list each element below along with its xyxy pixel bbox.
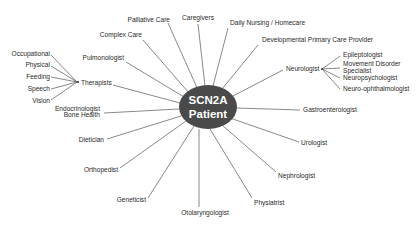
spoke-pulmonologist bbox=[126, 62, 184, 97]
label-urologist: Urologist bbox=[301, 139, 327, 147]
branch-speech bbox=[51, 82, 77, 89]
spoke-geneticist bbox=[148, 126, 194, 198]
therapist-type-labels: Occupational Physical Feeding Speech Vis… bbox=[12, 50, 51, 104]
spoke-neurologist bbox=[233, 70, 283, 96]
spoke-urologist bbox=[230, 118, 299, 142]
spoke-gastroenterologist bbox=[236, 108, 300, 110]
label-therapy-physical: Physical bbox=[25, 61, 50, 69]
label-therapy-vision: Vision bbox=[32, 97, 50, 104]
label-developmental-pcp: Developmental Primary Care Provider bbox=[262, 36, 374, 44]
label-pulmonologist: Pulmonologist bbox=[83, 54, 125, 62]
center-ellipse bbox=[179, 85, 237, 129]
label-therapy-speech: Speech bbox=[28, 85, 51, 93]
branch-movement-disorder bbox=[322, 68, 340, 69]
spoke-caregivers bbox=[198, 24, 205, 86]
spoke-physiatrist bbox=[210, 129, 252, 198]
neurologist-junction-dot bbox=[321, 68, 323, 70]
label-gastroenterologist: Gastroenterologist bbox=[303, 106, 357, 114]
center-label-line2: Patient bbox=[189, 108, 228, 120]
label-movement-disorder: Movement Disorder bbox=[343, 60, 401, 67]
care-team-diagram: SCN2A Patient Palliative Care Caregivers… bbox=[0, 0, 416, 226]
label-neuropsychologist: Neuropsychologist bbox=[343, 74, 397, 82]
label-neuro-ophthalmologist: Neuro-ophthalmologist bbox=[343, 85, 410, 93]
label-geneticist: Geneticist bbox=[117, 196, 146, 203]
therapist-branches bbox=[51, 55, 79, 100]
label-epileptologist: Epileptologist bbox=[343, 51, 382, 59]
label-neurologist: Neurologist bbox=[286, 65, 320, 73]
label-complex-care: Complex Care bbox=[100, 31, 142, 39]
spoke-complex-care bbox=[143, 40, 189, 93]
neurology-subspecialty-labels: Epileptologist Movement Disorder Special… bbox=[343, 51, 410, 93]
label-physiatrist: Physiatrist bbox=[254, 199, 285, 207]
center-label-line1: SCN2A bbox=[189, 94, 228, 106]
branch-neuro-ophthalmologist bbox=[322, 69, 340, 89]
label-palliative-care: Palliative Care bbox=[127, 16, 170, 23]
spoke-orthopedist bbox=[120, 121, 186, 168]
branch-epileptologist bbox=[322, 56, 340, 69]
neurologist-branches bbox=[321, 56, 340, 89]
label-nephrologist: Nephrologist bbox=[278, 172, 315, 180]
branch-vision bbox=[51, 82, 77, 100]
label-dietician: Dietician bbox=[79, 136, 105, 143]
spoke-nephrologist bbox=[222, 125, 276, 172]
label-therapy-feeding: Feeding bbox=[26, 73, 50, 81]
label-daily-nursing: Daily Nursing / Homecare bbox=[230, 19, 305, 27]
spoke-dietician bbox=[107, 116, 181, 139]
label-orthopedist: Orthopedist bbox=[84, 166, 118, 174]
spoke-daily-nursing bbox=[213, 28, 228, 86]
label-therapy-occupational: Occupational bbox=[12, 50, 51, 58]
therapists-junction-dot bbox=[77, 81, 79, 83]
spoke-endocrinologist bbox=[104, 109, 179, 113]
spoke-therapists bbox=[113, 85, 180, 103]
label-bone-health: Bone Health bbox=[64, 111, 101, 118]
spoke-developmental-pcp bbox=[222, 45, 258, 89]
label-therapists: Therapists bbox=[81, 79, 112, 87]
center-node: SCN2A Patient bbox=[179, 85, 237, 129]
branch-neuropsychologist bbox=[322, 69, 340, 78]
spoke-palliative-care bbox=[168, 23, 198, 90]
label-caregivers: Caregivers bbox=[182, 14, 215, 22]
label-otolaryngologist: Otolaryngologist bbox=[181, 209, 229, 217]
